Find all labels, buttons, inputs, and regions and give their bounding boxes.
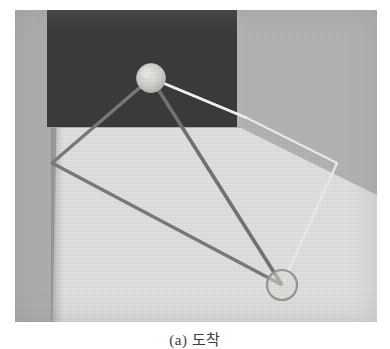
figure-caption: (a) 도착 — [0, 328, 390, 349]
light-quadrilateral — [151, 78, 337, 285]
sphere-marker — [137, 64, 166, 93]
geometry-overlay — [15, 10, 377, 322]
ring-marker — [267, 270, 297, 300]
scanned-photograph — [15, 10, 377, 322]
dark-quadrilateral — [52, 78, 282, 285]
